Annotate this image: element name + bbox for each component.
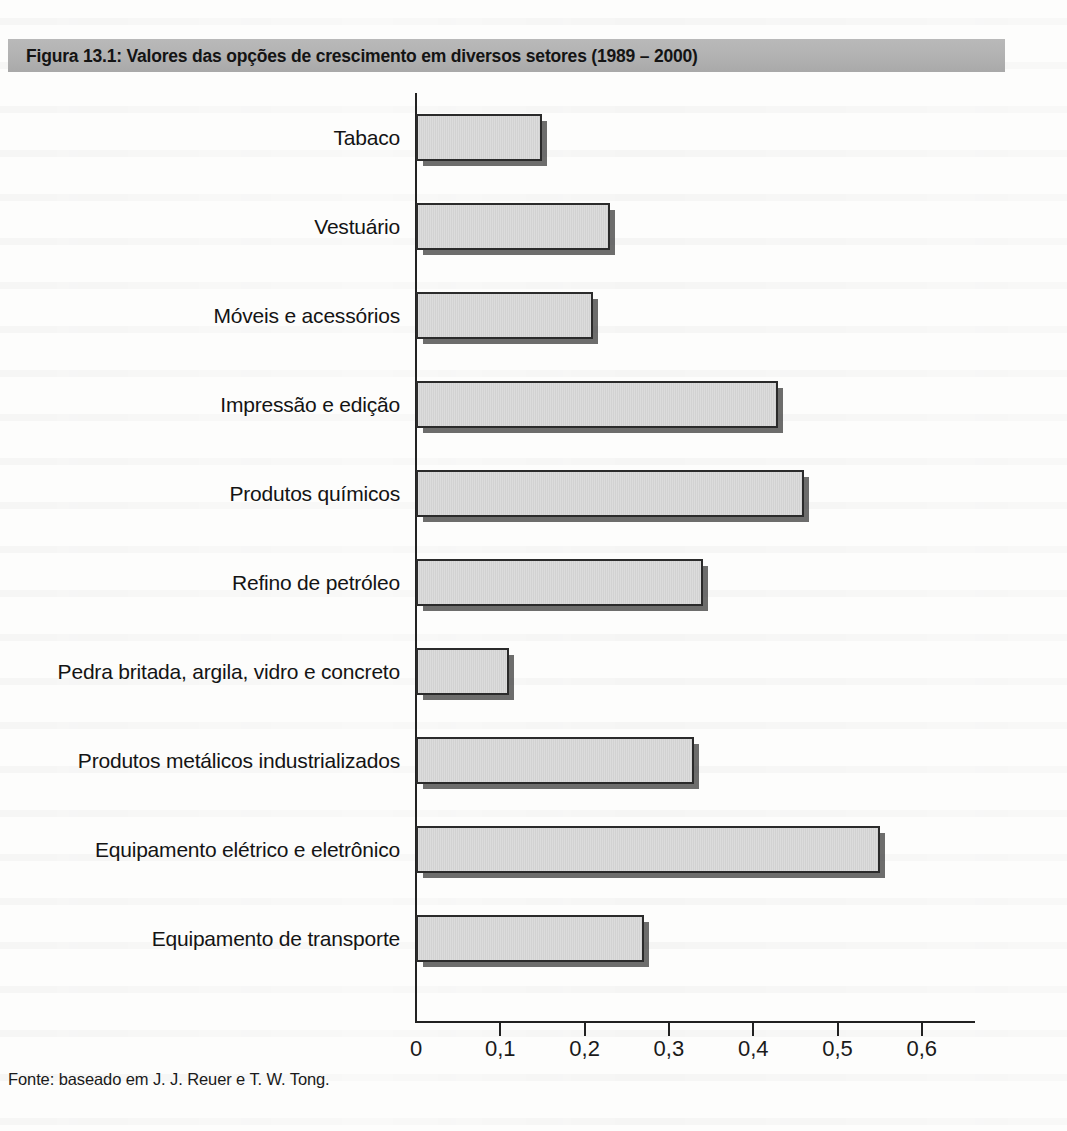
bar-category-label: Móveis e acessórios bbox=[214, 304, 400, 328]
x-axis-tick-label: 0,4 bbox=[738, 1036, 769, 1062]
bar bbox=[416, 648, 509, 695]
bar bbox=[416, 292, 593, 339]
x-axis-tick bbox=[584, 1023, 586, 1036]
x-axis-tick-label: 0,6 bbox=[907, 1036, 938, 1062]
bar-row: Equipamento de transporte bbox=[0, 915, 1067, 962]
x-axis-tick bbox=[668, 1023, 670, 1036]
bar bbox=[416, 203, 610, 250]
bar bbox=[416, 114, 542, 161]
bar-row: Refino de petróleo bbox=[0, 559, 1067, 606]
x-axis-tick bbox=[415, 1013, 417, 1023]
bar-row: Móveis e acessórios bbox=[0, 292, 1067, 339]
bar bbox=[416, 915, 644, 962]
bar-row: Produtos metálicos industrializados bbox=[0, 737, 1067, 784]
bar-row: Vestuário bbox=[0, 203, 1067, 250]
x-axis-tick-label: 0,1 bbox=[485, 1036, 516, 1062]
bar bbox=[416, 737, 694, 784]
x-axis-tick-label: 0 bbox=[410, 1036, 422, 1062]
x-axis-tick-label: 0,2 bbox=[569, 1036, 600, 1062]
x-axis-tick-label: 0,5 bbox=[822, 1036, 853, 1062]
bar-row: Equipamento elétrico e eletrônico bbox=[0, 826, 1067, 873]
bar-category-label: Produtos metálicos industrializados bbox=[78, 749, 400, 773]
bar bbox=[416, 470, 804, 517]
bar-category-label: Pedra britada, argila, vidro e concreto bbox=[58, 660, 400, 684]
bar-row: Pedra britada, argila, vidro e concreto bbox=[0, 648, 1067, 695]
x-axis-tick bbox=[752, 1023, 754, 1036]
x-axis-tick bbox=[837, 1023, 839, 1036]
bar-category-label: Equipamento elétrico e eletrônico bbox=[95, 838, 400, 862]
bar-category-label: Vestuário bbox=[314, 215, 400, 239]
bar bbox=[416, 826, 880, 873]
bar bbox=[416, 559, 703, 606]
bar-chart: 00,10,20,30,40,50,6 TabacoVestuárioMóvei… bbox=[0, 0, 1067, 1131]
bar-row: Impressão e edição bbox=[0, 381, 1067, 428]
bar-category-label: Refino de petróleo bbox=[232, 571, 400, 595]
x-axis-tick bbox=[921, 1023, 923, 1036]
x-axis-tick-label: 0,3 bbox=[654, 1036, 685, 1062]
bar-row: Produtos químicos bbox=[0, 470, 1067, 517]
bar-row: Tabaco bbox=[0, 114, 1067, 161]
bar-category-label: Produtos químicos bbox=[229, 482, 400, 506]
source-note: Fonte: baseado em J. J. Reuer e T. W. To… bbox=[8, 1070, 330, 1089]
bar bbox=[416, 381, 778, 428]
bar-category-label: Tabaco bbox=[333, 126, 400, 150]
x-axis-tick bbox=[499, 1023, 501, 1036]
bar-category-label: Equipamento de transporte bbox=[152, 927, 400, 951]
bar-category-label: Impressão e edição bbox=[220, 393, 400, 417]
